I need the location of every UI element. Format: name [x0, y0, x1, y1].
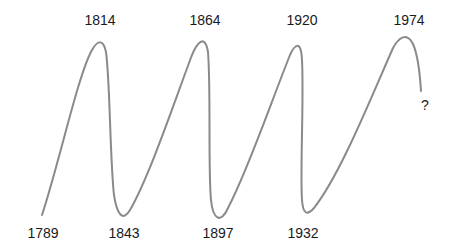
peak-label: 1814: [84, 12, 115, 28]
trough-label: 1843: [108, 225, 139, 241]
peak-label: 1864: [189, 12, 220, 28]
peak-label: 1920: [286, 12, 317, 28]
top-labels: 1814 1864 1920 1974: [84, 12, 424, 28]
bottom-labels: 1789 1843 1897 1932: [27, 225, 318, 241]
trough-label: 1897: [202, 225, 233, 241]
trough-label: 1932: [287, 225, 318, 241]
unknown-marker: ?: [421, 97, 429, 113]
cycle-curve: [42, 37, 421, 218]
trough-label: 1789: [27, 225, 58, 241]
peak-label: 1974: [393, 12, 424, 28]
wave-cycle-chart: 1814 1864 1920 1974 1789 1843 1897 1932 …: [0, 0, 451, 251]
